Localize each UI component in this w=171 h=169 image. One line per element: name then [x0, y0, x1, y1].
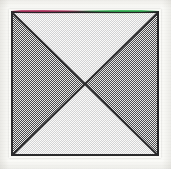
square-edge-right — [157, 11, 159, 156]
square-with-diagonals-figure — [11, 11, 159, 156]
figure-description: Square divided by both diagonals into fo… — [0, 0, 1, 1]
square-edge-bottom — [11, 154, 159, 156]
figure-canvas: Square divided by both diagonals into fo… — [0, 0, 171, 169]
square-edge-left — [11, 11, 13, 156]
square-edge-top — [11, 11, 159, 13]
diagonal-clip-group — [11, 11, 159, 156]
figure-caption — [0, 0, 1, 1]
